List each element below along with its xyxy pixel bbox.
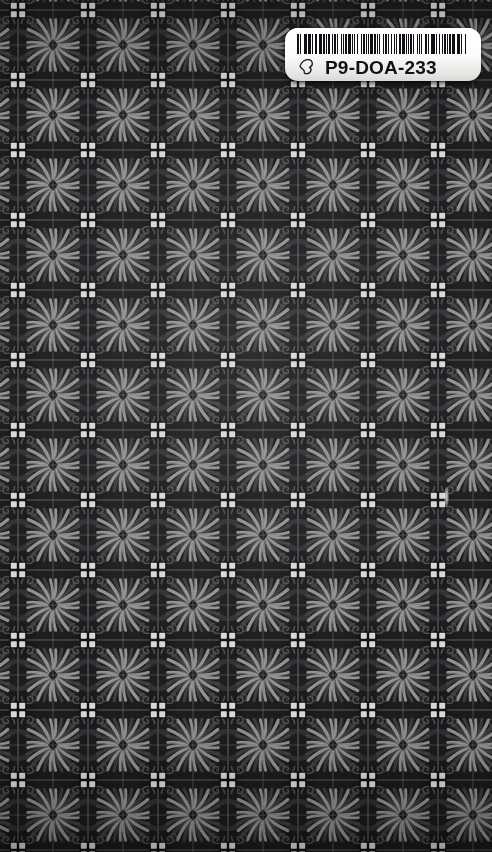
barcode-bars: [297, 34, 469, 54]
cursor-mark-icon: [298, 58, 315, 76]
label-code-text: P9-DOA-233: [325, 58, 437, 77]
barcode-label[interactable]: P9-DOA-233: [285, 28, 481, 81]
barcode-bar: [466, 34, 468, 54]
screenshot-canvas: P9-DOA-233: [0, 0, 492, 852]
ornamental-wallpaper-background: [0, 0, 492, 852]
label-text-row: P9-DOA-233: [285, 55, 481, 79]
